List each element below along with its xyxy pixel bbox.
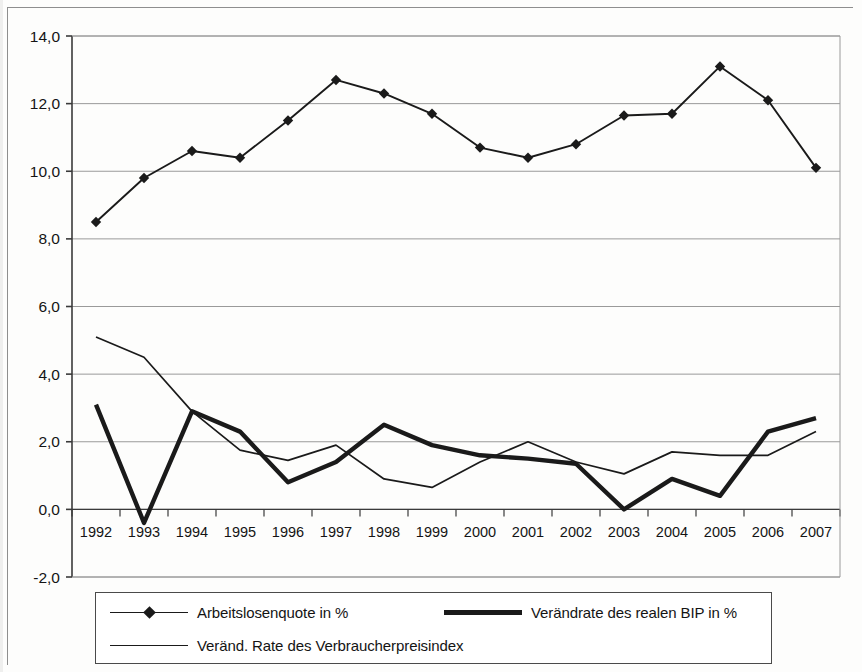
- svg-text:0,0: 0,0: [38, 501, 60, 518]
- svg-text:2002: 2002: [560, 524, 592, 540]
- chart-page: 14,012,010,08,06,04,02,00,0-2,0 19921993…: [0, 0, 862, 672]
- svg-text:1999: 1999: [416, 524, 448, 540]
- svg-text:4,0: 4,0: [38, 366, 60, 383]
- svg-text:6,0: 6,0: [38, 298, 60, 315]
- svg-text:1995: 1995: [224, 524, 256, 540]
- svg-text:2007: 2007: [800, 524, 832, 540]
- gridlines: [72, 36, 840, 577]
- svg-text:2005: 2005: [704, 524, 736, 540]
- svg-text:2000: 2000: [464, 524, 496, 540]
- svg-text:8,0: 8,0: [38, 230, 60, 247]
- legend-key-thin-line-icon: [110, 638, 188, 654]
- series-arbeitslosenquote-line: [96, 66, 816, 222]
- chart-legend: Arbeitslosenquote in % Verändrate des re…: [95, 592, 772, 664]
- x-tick-labels: 1992199319941995199619971998199920002001…: [80, 524, 832, 540]
- svg-text:1996: 1996: [272, 524, 304, 540]
- legend-item-bip: Verändrate des realen BIP in %: [444, 604, 737, 621]
- chart-plot-svg: 14,012,010,08,06,04,02,00,0-2,0 19921993…: [0, 0, 862, 672]
- svg-text:1994: 1994: [176, 524, 208, 540]
- series-arbeitslosenquote-markers: [91, 61, 821, 227]
- y-tick-labels: 14,012,010,08,06,04,02,00,0-2,0: [30, 28, 61, 586]
- svg-text:1997: 1997: [320, 524, 352, 540]
- svg-text:14,0: 14,0: [30, 28, 61, 45]
- svg-text:-2,0: -2,0: [33, 569, 60, 586]
- x-axis: [72, 509, 840, 516]
- svg-text:2003: 2003: [608, 524, 640, 540]
- y-axis: [66, 36, 72, 577]
- svg-text:2,0: 2,0: [38, 433, 60, 450]
- svg-text:1998: 1998: [368, 524, 400, 540]
- legend-item-arbeitslosenquote: Arbeitslosenquote in %: [110, 604, 440, 621]
- svg-text:1993: 1993: [128, 524, 160, 540]
- legend-row-2: Veränd. Rate des Verbraucherpreisindex: [96, 629, 771, 662]
- legend-label-bip: Verändrate des realen BIP in %: [531, 604, 737, 621]
- legend-key-line-with-diamond-marker-icon: [110, 605, 188, 621]
- legend-label-verbraucherpreisindex: Veränd. Rate des Verbraucherpreisindex: [197, 637, 463, 654]
- legend-label-arbeitslosenquote: Arbeitslosenquote in %: [197, 604, 348, 621]
- series-bip-line: [96, 405, 816, 523]
- svg-text:2004: 2004: [656, 524, 688, 540]
- svg-text:10,0: 10,0: [30, 163, 61, 180]
- svg-text:1992: 1992: [80, 524, 112, 540]
- svg-text:2001: 2001: [512, 524, 544, 540]
- svg-text:2006: 2006: [752, 524, 784, 540]
- legend-item-verbraucherpreisindex: Veränd. Rate des Verbraucherpreisindex: [110, 637, 463, 654]
- legend-row-1: Arbeitslosenquote in % Verändrate des re…: [96, 596, 771, 629]
- line-chart: 14,012,010,08,06,04,02,00,0-2,0 19921993…: [0, 0, 862, 672]
- series-verbraucherpreisindex-line: [96, 337, 816, 487]
- svg-text:12,0: 12,0: [30, 95, 61, 112]
- legend-key-thick-line-icon: [444, 605, 522, 621]
